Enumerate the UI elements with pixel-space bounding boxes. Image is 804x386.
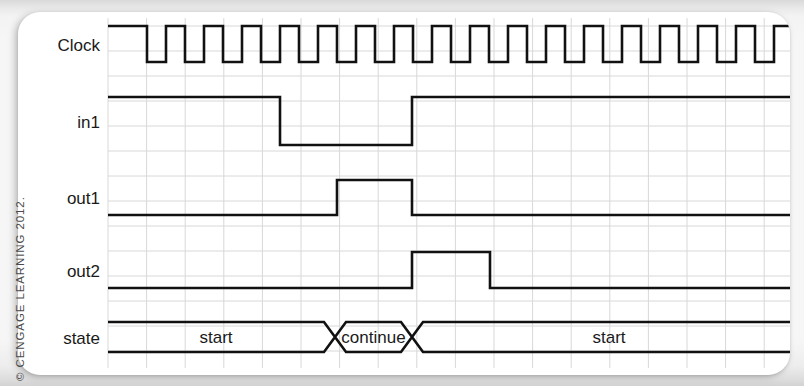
- state-segment-label: start: [592, 328, 625, 347]
- diagram-card: Clockin1out1out2state startcontinuestart: [18, 12, 790, 375]
- waveform-out2: [108, 252, 790, 288]
- signal-label-state: state: [63, 329, 100, 348]
- copyright-credit: © CENGAGE LEARNING 2012.: [0, 0, 28, 386]
- signal-label-clock: Clock: [57, 36, 100, 55]
- grid-layer: [108, 18, 790, 368]
- state-segment-label: start: [199, 328, 232, 347]
- copyright-text: © CENGAGE LEARNING 2012.: [14, 41, 26, 381]
- copyright-symbol: ©: [14, 372, 26, 381]
- signal-label-out2: out2: [67, 262, 100, 281]
- figure-stage: © CENGAGE LEARNING 2012. Clockin1out1out…: [0, 0, 804, 386]
- timing-diagram: Clockin1out1out2state startcontinuestart: [18, 12, 790, 375]
- waveform-out1: [108, 180, 790, 215]
- waveform-clock: [108, 26, 790, 62]
- copyright-owner: CENGAGE LEARNING 2012.: [14, 196, 26, 367]
- signal-label-out1: out1: [67, 189, 100, 208]
- state-segment-label: continue: [341, 328, 405, 347]
- signal-labels: Clockin1out1out2state: [57, 36, 100, 348]
- waveforms: [108, 26, 790, 288]
- waveform-in1: [108, 97, 790, 145]
- signal-label-in1: in1: [77, 113, 100, 132]
